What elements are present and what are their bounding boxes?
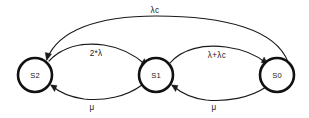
edge-s1-to-s2: μ [50,85,142,112]
node-s1[interactable]: S1 [139,58,173,92]
edge-s2-to-s1: 2*λ [49,44,147,66]
edge-label-s0-to-s2: λc [151,6,160,15]
edge-label-s1-to-s2: μ [89,103,94,112]
diagram-canvas: λc 2*λ λ+λc μ μ S2 [0,0,309,118]
node-s2-label: S2 [30,71,40,80]
edge-path-s1-to-s2 [52,85,142,99]
markov-chain-diagram: λc 2*λ λ+λc μ μ S2 [0,0,309,118]
edge-label-s0-to-s1: μ [211,103,216,112]
edge-path-s0-to-s2 [47,16,288,62]
edge-s1-to-s0: λ+λc [170,46,268,64]
edge-s0-to-s1: μ [171,85,266,112]
edge-path-s0-to-s1 [173,86,266,100]
node-s1-label: S1 [151,71,161,80]
arrow-head-into-s1-bottom [171,85,178,92]
edge-label-s2-to-s1: 2*λ [90,49,103,58]
node-s0[interactable]: S0 [260,58,294,92]
node-s2[interactable]: S2 [18,58,52,92]
arrow-head-into-s2-bottom [50,85,57,92]
edge-label-s1-to-s0: λ+λc [208,51,226,60]
node-s0-label: S0 [272,71,282,80]
